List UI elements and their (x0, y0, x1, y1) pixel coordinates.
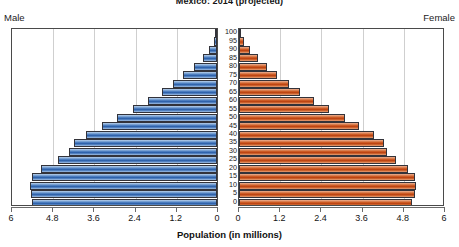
female-x-tick-label-4.8: 4.8 (390, 213, 416, 223)
female-x-tick-mark (403, 207, 404, 212)
male-x-tick-label-1.2: 1.2 (163, 213, 189, 223)
bar-female-age-35 (239, 139, 384, 147)
bar-male-age-85 (203, 54, 217, 62)
age-tick-60: 60 (218, 96, 237, 103)
age-tick-65: 65 (218, 88, 237, 95)
bar-female-age-80 (239, 63, 267, 71)
bar-female-age-15 (239, 173, 415, 181)
male-x-tick-label-2.4: 2.4 (122, 213, 148, 223)
chart-title: Mexico: 2014 (projected) (0, 0, 459, 7)
bar-male-age-15 (32, 173, 217, 181)
bar-female-age-70 (239, 80, 289, 88)
bar-male-age-75 (183, 71, 217, 79)
female-x-tick-label-6: 6 (431, 213, 457, 223)
bar-female-age-5 (239, 190, 415, 198)
bar-female-age-60 (239, 97, 314, 105)
age-tick-10: 10 (218, 181, 237, 188)
bar-male-age-25 (58, 156, 217, 164)
age-tick-55: 55 (218, 105, 237, 112)
age-tick-50: 50 (218, 113, 237, 120)
bar-female-age-90 (239, 46, 250, 54)
male-x-tick-mark (93, 207, 94, 212)
bar-male-age-5 (31, 190, 217, 198)
age-tick-20: 20 (218, 164, 237, 171)
age-tick-15: 15 (218, 172, 237, 179)
population-pyramid-chart: Mexico: 2014 (projected) Male Female 100… (0, 0, 459, 247)
bar-female-age-30 (239, 148, 387, 156)
bar-male-age-65 (162, 88, 217, 96)
bar-female-age-10 (239, 182, 416, 190)
age-tick-40: 40 (218, 130, 237, 137)
male-x-tick-mark (176, 207, 177, 212)
female-x-tick-label-0: 0 (225, 213, 251, 223)
bar-female-age-40 (239, 131, 374, 139)
age-tick-30: 30 (218, 147, 237, 154)
bar-male-age-20 (41, 165, 217, 173)
female-x-tick-mark (362, 207, 363, 212)
bar-female-age-75 (239, 71, 277, 79)
female-plot-panel (238, 28, 444, 206)
male-x-tick-mark (217, 207, 218, 212)
age-tick-85: 85 (218, 54, 237, 61)
age-tick-0: 0 (218, 198, 237, 205)
bar-male-age-60 (148, 97, 217, 105)
bar-male-age-95 (214, 37, 217, 45)
bar-female-age-95 (239, 37, 244, 45)
bar-male-age-0 (32, 199, 217, 206)
age-tick-70: 70 (218, 79, 237, 86)
bar-female-age-0 (239, 199, 412, 206)
male-plot-panel (11, 28, 218, 206)
female-x-axis-line (238, 207, 444, 208)
age-axis: 1009590858075706560555045403530252015105… (218, 28, 238, 206)
bar-male-age-80 (194, 63, 217, 71)
female-x-tick-mark (444, 207, 445, 212)
bar-female-age-85 (239, 54, 258, 62)
bar-female-age-50 (239, 114, 345, 122)
bar-female-age-25 (239, 156, 396, 164)
bar-female-age-45 (239, 122, 359, 130)
bar-male-age-40 (86, 131, 217, 139)
bar-female-age-100 (239, 29, 241, 37)
age-tick-75: 75 (218, 71, 237, 78)
male-x-tick-label-6: 6 (0, 213, 24, 223)
female-x-tick-label-2.4: 2.4 (307, 213, 333, 223)
age-tick-95: 95 (218, 37, 237, 44)
male-x-tick-mark (135, 207, 136, 212)
bar-male-age-50 (117, 114, 217, 122)
x-axis-title: Population (in millions) (0, 229, 459, 240)
male-x-tick-mark (52, 207, 53, 212)
bar-male-age-30 (69, 148, 217, 156)
female-legend-label: Female (423, 12, 455, 23)
male-legend-label: Male (4, 12, 25, 23)
bar-male-age-35 (74, 139, 218, 147)
bar-female-age-55 (239, 105, 329, 113)
age-tick-25: 25 (218, 155, 237, 162)
female-x-tick-mark (320, 207, 321, 212)
male-x-axis-line (11, 207, 218, 208)
male-x-tick-mark (11, 207, 12, 212)
bar-male-age-10 (30, 182, 217, 190)
male-x-tick-label-3.6: 3.6 (80, 213, 106, 223)
age-tick-100: 100 (218, 28, 237, 35)
bar-male-age-70 (173, 80, 217, 88)
bar-female-age-20 (239, 165, 408, 173)
age-tick-90: 90 (218, 45, 237, 52)
age-tick-35: 35 (218, 138, 237, 145)
female-x-tick-mark (238, 207, 239, 212)
age-tick-45: 45 (218, 122, 237, 129)
bar-male-age-90 (209, 46, 217, 54)
age-tick-80: 80 (218, 62, 237, 69)
age-tick-5: 5 (218, 189, 237, 196)
male-x-tick-label-4.8: 4.8 (39, 213, 65, 223)
bar-male-age-55 (133, 105, 217, 113)
bar-female-age-65 (239, 88, 300, 96)
bar-male-age-45 (102, 122, 217, 130)
female-x-tick-label-3.6: 3.6 (349, 213, 375, 223)
female-x-tick-label-1.2: 1.2 (266, 213, 292, 223)
female-x-tick-mark (279, 207, 280, 212)
bar-male-age-100 (215, 29, 217, 37)
